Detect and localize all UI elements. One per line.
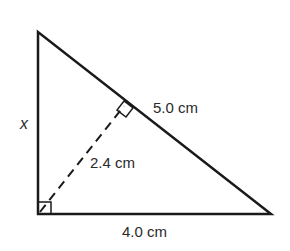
hypotenuse-label: 5.0 cm	[153, 99, 198, 116]
altitude-label: 2.4 cm	[90, 154, 135, 171]
base-label: 4.0 cm	[122, 223, 167, 240]
triangle-diagram	[0, 0, 290, 251]
side-x-label: x	[20, 115, 28, 133]
right-triangle	[38, 32, 271, 214]
right-angle-marker-bottom-left	[38, 202, 51, 214]
